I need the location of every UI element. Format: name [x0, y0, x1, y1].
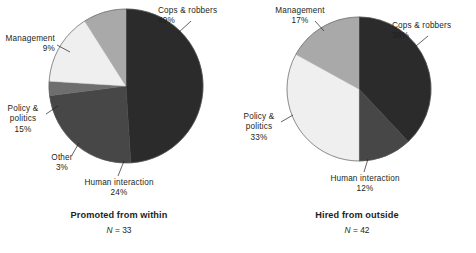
label-management-right-pct: 17%	[262, 16, 338, 26]
caption-n-left: N = 33	[0, 225, 238, 235]
label-cops-robbers-right-pct: 38%	[392, 31, 451, 41]
caption-n-equals-right: =	[353, 225, 358, 235]
caption-title-left: Promoted from within	[0, 210, 238, 220]
label-human-interaction-left-pct: 24%	[75, 188, 163, 198]
leader-line-human-interaction	[118, 161, 124, 176]
label-policy-politics-right-line1: Policy &	[244, 112, 275, 121]
pie-slices-left	[49, 9, 203, 163]
label-policy-politics-left-line2: politics	[2, 114, 44, 124]
label-human-interaction-left: Human interaction 24%	[75, 178, 163, 199]
caption-n-symbol-left: N	[107, 225, 113, 235]
caption-n-value-left: 33	[122, 225, 131, 235]
label-policy-politics-right: Policy & politics 33%	[238, 112, 280, 143]
label-cops-robbers-left: Cops & robbers 49%	[158, 6, 217, 27]
pie-chart-figure: Cops & robbers 49% Management 9% Policy …	[0, 0, 476, 253]
caption-title-right: Hired from outside	[238, 210, 476, 220]
label-management-right-name: Management	[275, 6, 324, 15]
label-cops-robbers-left-pct: 49%	[158, 16, 217, 26]
label-human-interaction-right-name: Human interaction	[330, 174, 399, 183]
label-policy-politics-right-line2: politics	[238, 122, 280, 132]
label-human-interaction-right: Human interaction 12%	[321, 174, 409, 195]
caption-n-symbol-right: N	[345, 225, 351, 235]
label-management-left-name: Management	[6, 34, 55, 43]
label-human-interaction-left-name: Human interaction	[84, 178, 153, 187]
pie-slice-cops-robbers	[126, 9, 203, 163]
label-management-left-pct: 9%	[0, 44, 55, 54]
label-policy-politics-left-pct: 15%	[2, 125, 44, 135]
label-management-right: Management 17%	[262, 6, 338, 27]
label-policy-politics-right-pct: 33%	[238, 133, 280, 143]
label-policy-politics-left-line1: Policy &	[8, 104, 39, 113]
label-cops-robbers-left-name: Cops & robbers	[158, 6, 217, 15]
label-human-interaction-right-pct: 12%	[321, 184, 409, 194]
caption-hired-from-outside: Hired from outside N = 42	[238, 210, 476, 235]
caption-n-value-right: 42	[360, 225, 369, 235]
label-cops-robbers-right: Cops & robbers 38%	[392, 21, 451, 42]
caption-promoted-from-within: Promoted from within N = 33	[0, 210, 238, 235]
pie-slice-human-interaction	[50, 86, 131, 163]
label-other-left: Other 3%	[42, 153, 82, 174]
chart-panel-promoted-from-within: Cops & robbers 49% Management 9% Policy …	[0, 0, 238, 253]
chart-panel-hired-from-outside: Management 17% Cops & robbers 38% Policy…	[238, 0, 476, 253]
leader-line-policy-politics	[281, 115, 293, 122]
caption-n-right: N = 42	[238, 225, 476, 235]
label-cops-robbers-right-name: Cops & robbers	[392, 21, 451, 30]
label-other-left-pct: 3%	[42, 163, 82, 173]
label-policy-politics-left: Policy & politics 15%	[2, 104, 44, 135]
caption-n-equals-left: =	[115, 225, 120, 235]
label-management-left: Management 9%	[0, 34, 55, 55]
label-other-left-name: Other	[51, 153, 72, 162]
